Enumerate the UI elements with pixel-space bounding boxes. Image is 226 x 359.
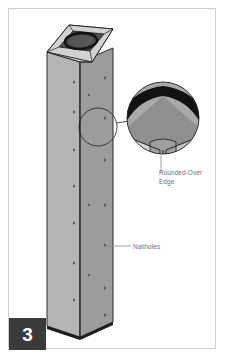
- nailhole: [73, 262, 75, 265]
- nailhole: [104, 204, 106, 207]
- callout-label-nailholes: Nailholes: [133, 243, 203, 252]
- nailhole: [104, 77, 106, 80]
- nailhole: [73, 222, 75, 225]
- nailhole: [88, 274, 90, 277]
- nailhole: [73, 299, 75, 302]
- callout-label-rounded-over-edge: Rounded-Over Edge: [159, 169, 221, 186]
- nailhole: [73, 81, 75, 84]
- nailhole: [104, 117, 106, 120]
- detail-corner-nose: [150, 139, 176, 160]
- step-number-badge: 3: [9, 318, 46, 350]
- detail-magnified-circle: [112, 80, 214, 172]
- nailhole: [104, 159, 106, 162]
- post-right-face: [80, 48, 113, 337]
- post-left-face: [47, 52, 80, 337]
- nailhole: [73, 149, 75, 152]
- nailhole: [73, 111, 75, 114]
- nailhole: [104, 287, 106, 290]
- nailhole: [88, 204, 90, 207]
- post-column: [47, 48, 113, 337]
- figure-page: Rounded-Over Edge Nailholes 3: [0, 0, 226, 359]
- nailhole: [104, 244, 106, 247]
- nailhole: [88, 94, 90, 97]
- nailhole: [73, 185, 75, 188]
- nailhole: [104, 314, 106, 317]
